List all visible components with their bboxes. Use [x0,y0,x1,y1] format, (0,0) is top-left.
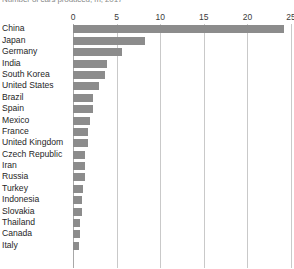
bar-row [73,58,291,69]
category-label-brazil: Brazil [2,92,24,103]
bar-czech-republic[interactable] [73,151,85,159]
bar-germany[interactable] [73,48,122,56]
x-tick-label-20: 20 [243,12,252,22]
category-label-united-states: United States [2,80,54,91]
bar-spain[interactable] [73,105,93,113]
category-row: Canada [0,229,71,240]
bar-mexico[interactable] [73,117,90,125]
y-axis-labels: ChinaJapanGermanyIndiaSouth KoreaUnited … [0,24,71,268]
category-row: United Kingdom [0,138,71,149]
category-label-mexico: Mexico [2,115,29,126]
category-label-iran: Iran [2,160,17,171]
x-tick-label-15: 15 [199,12,208,22]
category-label-czech-republic: Czech Republic [2,149,62,160]
x-axis: 0510152025 [0,12,294,23]
bar-canada[interactable] [73,230,80,238]
category-row: Mexico [0,115,71,126]
x-tick-label-5: 5 [114,12,119,22]
bar-row [73,195,291,206]
chart-title: Number of cars produced, m, 2017 [2,0,122,4]
category-label-russia: Russia [2,171,28,182]
bar-south-korea[interactable] [73,71,105,79]
bar-row [73,115,291,126]
bar-japan[interactable] [73,37,145,45]
category-row: Thailand [0,218,71,229]
bar-china[interactable] [73,25,284,33]
category-label-china: China [2,23,24,34]
category-row: Turkey [0,183,71,194]
bar-row [73,47,291,58]
category-row: Iran [0,161,71,172]
category-row: United States [0,81,71,92]
bar-united-kingdom[interactable] [73,139,88,147]
category-label-turkey: Turkey [2,183,28,194]
bar-row [73,172,291,183]
bar-row [73,240,291,251]
category-label-spain: Spain [2,103,24,114]
bar-row [73,229,291,240]
bar-italy[interactable] [73,242,79,250]
category-label-united-kingdom: United Kingdom [2,137,63,148]
bar-row [73,161,291,172]
x-tick-label-0: 0 [71,12,76,22]
bar-row [73,149,291,160]
bar-row [73,183,291,194]
category-label-germany: Germany [2,46,37,57]
bar-iran[interactable] [73,162,85,170]
bar-slovakia[interactable] [73,208,82,216]
category-row: Brazil [0,92,71,103]
x-tick-label-25: 25 [286,12,294,22]
bar-row [73,70,291,81]
bar-france[interactable] [73,128,88,136]
bar-row [73,218,291,229]
category-row: India [0,58,71,69]
bar-row [73,35,291,46]
bar-brazil[interactable] [73,94,93,102]
bar-russia[interactable] [73,173,85,181]
category-label-indonesia: Indonesia [2,194,39,205]
bar-thailand[interactable] [73,219,80,227]
category-row: France [0,127,71,138]
bars-layer [73,24,291,268]
bar-row [73,104,291,115]
bar-chart: Number of cars produced, m, 2017 0510152… [0,0,294,269]
category-label-india: India [2,58,21,69]
bar-indonesia[interactable] [73,196,82,204]
bar-row [73,206,291,217]
category-row: Indonesia [0,195,71,206]
category-label-italy: Italy [2,240,18,251]
category-label-canada: Canada [2,228,32,239]
category-label-france: France [2,126,29,137]
category-label-south-korea: South Korea [2,69,50,80]
bar-row [73,138,291,149]
bar-united-states[interactable] [73,82,99,90]
category-row: China [0,24,71,35]
bar-row [73,127,291,138]
category-label-slovakia: Slovakia [2,206,34,217]
bar-row [73,24,291,35]
category-row: Russia [0,172,71,183]
category-row: Germany [0,47,71,58]
category-row: Italy [0,240,71,251]
category-row: Spain [0,104,71,115]
x-tick-label-10: 10 [155,12,164,22]
bar-row [73,81,291,92]
bar-india[interactable] [73,60,107,68]
bar-turkey[interactable] [73,185,83,193]
bar-row [73,92,291,103]
category-row: Japan [0,35,71,46]
category-row: Slovakia [0,206,71,217]
category-row: Czech Republic [0,149,71,160]
category-label-japan: Japan [2,35,25,46]
gridline-25 [291,24,292,268]
category-label-thailand: Thailand [2,217,35,228]
category-row: South Korea [0,70,71,81]
